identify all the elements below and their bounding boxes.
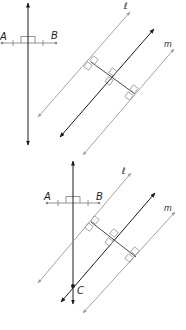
line-l	[38, 173, 131, 283]
point-c	[71, 284, 75, 288]
point-a	[46, 202, 49, 205]
line-l	[38, 12, 130, 117]
label-m: m	[164, 204, 172, 213]
label-a: A	[0, 31, 7, 42]
transversal-line	[91, 222, 136, 257]
label-l: ℓ	[121, 166, 126, 176]
point-b	[55, 42, 58, 45]
label-c: C	[77, 285, 84, 296]
label-b: B	[51, 30, 58, 41]
point-a	[1, 42, 4, 45]
transversal-line	[91, 62, 135, 94]
line-m	[83, 49, 174, 155]
label-m: m	[164, 40, 172, 49]
bottom-panel: A B ℓ m C	[38, 161, 175, 313]
point-b	[98, 202, 101, 205]
label-l: ℓ	[123, 1, 128, 11]
segment-ab	[1, 37, 58, 47]
geometry-diagram: A B ℓ m	[0, 0, 186, 330]
label-b: B	[96, 191, 103, 202]
right-angle-marks	[85, 216, 139, 262]
top-panel: A B ℓ m	[0, 1, 174, 155]
label-a: A	[43, 191, 51, 202]
line-m	[83, 212, 175, 313]
